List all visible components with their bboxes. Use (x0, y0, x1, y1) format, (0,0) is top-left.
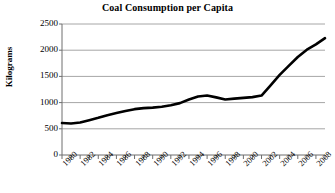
gridlines (62, 24, 325, 129)
chart-container: Coal Consumption per Capita Kilograms 05… (0, 0, 335, 193)
data-series-line (62, 38, 325, 123)
